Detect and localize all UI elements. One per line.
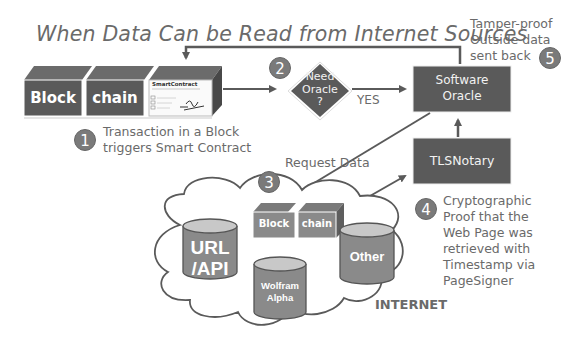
- caption-line: Proof that the: [443, 209, 535, 225]
- step-2-badge: 2: [269, 57, 291, 79]
- caption-line: triggers Smart Contract: [103, 140, 251, 156]
- yes-label: YES: [357, 93, 380, 107]
- diagram-title: When Data Can be Read from Internet Sour…: [36, 22, 527, 46]
- internet-label: INTERNET: [375, 297, 447, 312]
- internet-block-label: Block: [253, 218, 295, 229]
- db-line: Wolfram: [254, 280, 306, 292]
- decision-line: ?: [292, 96, 348, 109]
- db-other-label: Other: [340, 249, 394, 264]
- arrow-cloud-to-tls: [370, 176, 405, 196]
- caption-line: Outside data: [470, 32, 552, 48]
- step-1-caption: Transaction in a Block triggers Smart Co…: [103, 124, 251, 156]
- oracle-line: Software: [413, 72, 511, 88]
- tlsnotary-label: TLSNotary: [413, 153, 511, 169]
- caption-line: PageSigner: [443, 273, 535, 289]
- feedback-arrow: [186, 47, 460, 64]
- step-5-badge: 5: [539, 47, 561, 69]
- step-1-badge: 1: [74, 129, 96, 151]
- internet-chain-label: chain: [298, 218, 336, 229]
- chain-label: chain: [86, 89, 144, 107]
- oracle-line: Oracle: [413, 88, 511, 104]
- software-oracle-label: Software Oracle: [413, 72, 511, 104]
- caption-line: Tamper-proof: [470, 16, 552, 32]
- caption-line: Timestamp via: [443, 257, 535, 273]
- db-line: /API: [183, 258, 237, 279]
- step-3-badge: 3: [258, 171, 280, 193]
- step-4-caption: Cryptographic Proof that the Web Page wa…: [443, 193, 535, 289]
- step-3-caption: Request Data: [285, 155, 370, 171]
- caption-line: Cryptographic: [443, 193, 535, 209]
- caption-line: retrieved with: [443, 241, 535, 257]
- db-url-api-label: URL /API: [183, 237, 237, 279]
- db-line: Alpha: [254, 292, 306, 304]
- caption-line: Transaction in a Block: [103, 124, 251, 140]
- step-4-badge: 4: [415, 198, 437, 220]
- caption-line: Web Page was: [443, 225, 535, 241]
- decision-label: Need Oracle ?: [292, 71, 348, 109]
- decision-line: Need: [292, 71, 348, 84]
- block-label: Block: [24, 89, 82, 107]
- smart-contract-label: SmartContract: [152, 81, 197, 87]
- db-wolfram-label: Wolfram Alpha: [254, 280, 306, 304]
- db-line: URL: [183, 237, 237, 258]
